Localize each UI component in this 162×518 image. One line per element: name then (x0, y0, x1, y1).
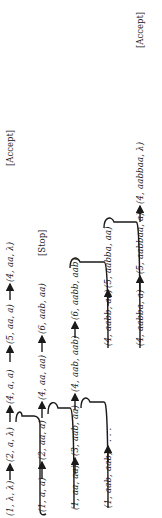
node: (4, aa, aa) (37, 355, 47, 400)
node: (4, aabbaa, λ) (135, 142, 145, 204)
diagram-canvas: (1, λ, λ) (2, a, λ) (4, a, a) (5, aa, a)… (0, 0, 162, 518)
node: (4, aa, λ) (5, 242, 15, 282)
accept-label: [Accept] (135, 12, 145, 48)
node: (6, aabb, aab) (70, 258, 80, 320)
node: (1, aa, aa) (70, 465, 80, 510)
stop-label: [Stop] (37, 230, 47, 256)
node: (1, a, a) (37, 477, 47, 512)
node: (5, aabba, aa) (103, 226, 113, 288)
node: (4, a, a) (5, 369, 15, 404)
node: (4, aab, aab) (70, 335, 80, 392)
node: (5, aa, a) (5, 304, 15, 344)
node: (4, aabba, a) (135, 289, 145, 346)
node: (4, aabb, aa) (103, 289, 113, 346)
node: (2, aa, a) (37, 420, 47, 460)
node: (5, aabbaa, a) (135, 212, 145, 274)
node: (3, aab, aa) (70, 405, 80, 456)
accept-label: [Accept] (5, 130, 15, 166)
node: (1, λ, λ) (5, 481, 15, 516)
ellipsis: . . . (103, 427, 113, 442)
node: (1, aab, aab) (103, 451, 113, 508)
node: (6, aab, aa) (37, 283, 47, 334)
node: (2, a, λ) (5, 427, 15, 462)
